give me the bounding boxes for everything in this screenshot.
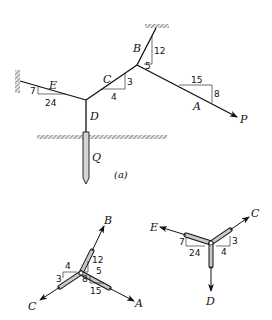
force-c-arrow xyxy=(40,287,60,300)
force-b-arrow xyxy=(92,226,104,251)
label-b: B xyxy=(132,42,141,55)
slope-a-rise: 8 xyxy=(214,89,220,99)
wall-support-e xyxy=(15,70,20,93)
joint-right xyxy=(209,241,213,245)
statics-diagram: B 12 5 C 3 4 A 15 8 P E 7 24 D Q (a) xyxy=(0,0,272,320)
rod-b-left-fill xyxy=(81,251,92,273)
fbd-left-label-c: C xyxy=(28,300,37,313)
slope-e-rise: 7 xyxy=(30,86,36,96)
fbd-right-slope-c-rise: 3 xyxy=(232,236,238,246)
force-a-arrow xyxy=(109,288,134,301)
slope-a-run: 15 xyxy=(191,75,202,85)
fbd-left-slope-b-run: 5 xyxy=(96,266,102,276)
slope-e-run: 24 xyxy=(45,98,57,108)
fbd-left-label-a: A xyxy=(134,297,143,310)
fbd-left-slope-c-run: 4 xyxy=(65,261,71,271)
force-c-arrow-right xyxy=(230,217,249,230)
force-e-arrow xyxy=(160,227,186,235)
pile-q xyxy=(83,132,89,184)
ground xyxy=(37,135,167,139)
rod-e-right-fill xyxy=(186,235,211,243)
main-diagram: B 12 5 C 3 4 A 15 8 P E 7 24 D Q (a) xyxy=(15,24,248,184)
fbd-right-label-c: C xyxy=(251,207,260,220)
slope-c-run: 4 xyxy=(111,92,117,102)
ceiling-support-b xyxy=(145,24,169,28)
fbd-left-slope-a-rise: 8 xyxy=(82,274,88,284)
caption-a: (a) xyxy=(114,169,128,180)
slope-b-run: 5 xyxy=(145,61,151,71)
slope-b-rise: 12 xyxy=(154,46,165,56)
fbd-right: E C D 7 24 3 4 xyxy=(149,207,260,308)
cable-a xyxy=(137,65,237,117)
fbd-right-slope-c-run: 4 xyxy=(221,247,227,257)
fbd-left: B C A 12 5 4 3 8 15 xyxy=(28,214,143,313)
label-a: A xyxy=(192,100,201,113)
label-p: P xyxy=(239,113,248,126)
rod-c-right-fill xyxy=(211,230,230,243)
fbd-right-label-e: E xyxy=(149,221,158,234)
label-c: C xyxy=(103,73,112,86)
label-d: D xyxy=(89,110,99,123)
fbd-right-label-d: D xyxy=(205,295,215,308)
label-e: E xyxy=(48,79,57,92)
label-q: Q xyxy=(92,151,101,164)
fbd-left-label-b: B xyxy=(103,214,112,227)
fbd-left-slope-a-run: 15 xyxy=(90,286,101,296)
fbd-right-slope-e-rise: 7 xyxy=(179,237,185,247)
fbd-left-slope-b-rise: 12 xyxy=(92,255,103,265)
slope-c-rise: 3 xyxy=(127,77,133,87)
fbd-right-slope-e-run: 24 xyxy=(189,248,201,258)
fbd-left-slope-c-rise: 3 xyxy=(56,274,62,284)
